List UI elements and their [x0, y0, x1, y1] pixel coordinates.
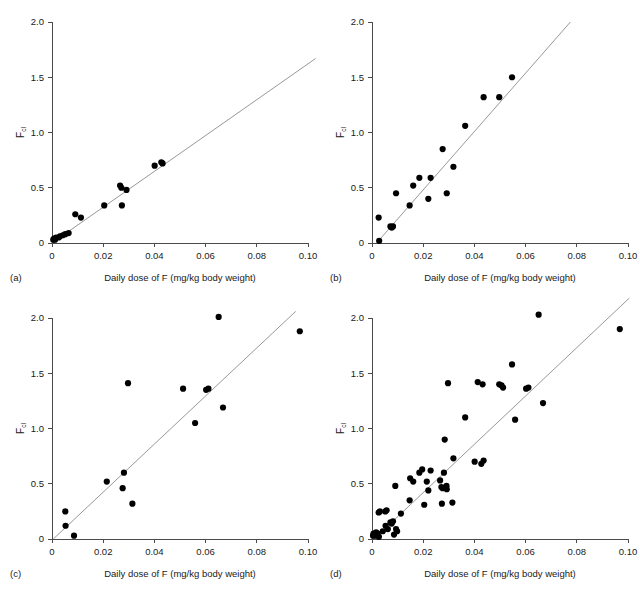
x-axis-title: Daily dose of F (mg/kg body weight) — [424, 272, 576, 283]
y-tick-label: 1.5 — [351, 368, 364, 379]
x-tick-label: 0 — [49, 546, 54, 557]
y-tick-label: 0.5 — [351, 182, 364, 193]
data-point — [462, 414, 468, 420]
data-point — [449, 499, 455, 505]
scatter-panel-c: 00.51.01.52.000.020.040.060.080.10FclDai… — [0, 296, 320, 592]
y-tick-label: 1.0 — [351, 127, 364, 138]
y-axis-title: Fcl — [15, 423, 27, 434]
data-point — [462, 123, 468, 129]
data-point — [385, 526, 391, 532]
data-point — [72, 211, 78, 217]
data-point — [376, 534, 382, 540]
scatter-panel-d: 00.51.01.52.000.020.040.060.080.10FclDai… — [320, 296, 640, 592]
data-point — [119, 202, 125, 208]
data-point — [393, 190, 399, 196]
scatter-panel-a: 00.51.01.52.000.020.040.060.080.10FclDai… — [0, 0, 320, 296]
data-point — [472, 459, 478, 465]
data-point — [617, 326, 623, 332]
data-point — [66, 230, 72, 236]
panel-label: (b) — [330, 272, 342, 283]
regression-line — [53, 311, 295, 539]
plot-area: 00.51.01.52.000.020.040.060.080.10FclDai… — [0, 296, 320, 592]
data-point — [410, 182, 416, 188]
y-tick-label: 0 — [359, 533, 364, 544]
y-axis-title-subscript: cl — [20, 127, 27, 132]
x-tick-label: 0.02 — [414, 250, 433, 261]
y-tick-label: 2.0 — [31, 312, 44, 323]
data-point — [525, 385, 531, 391]
data-point — [390, 223, 396, 229]
x-tick-label: 0 — [369, 546, 374, 557]
data-point — [425, 196, 431, 202]
data-point — [450, 455, 456, 461]
y-tick-label: 1.0 — [351, 423, 364, 434]
data-point — [62, 508, 68, 514]
y-axis-title-subscript: cl — [20, 423, 27, 428]
data-point — [192, 420, 198, 426]
data-point — [121, 470, 127, 476]
data-point — [441, 470, 447, 476]
y-tick-label: 1.5 — [31, 72, 44, 83]
data-point — [376, 214, 382, 220]
data-point — [180, 386, 186, 392]
data-point — [442, 436, 448, 442]
data-point — [540, 400, 546, 406]
data-point — [424, 478, 430, 484]
data-point — [62, 523, 68, 529]
data-point — [390, 518, 396, 524]
x-tick-label: 0.04 — [145, 250, 164, 261]
data-point — [125, 380, 131, 386]
data-point — [425, 487, 431, 493]
x-tick-label: 0.04 — [465, 546, 484, 557]
regression-line — [52, 58, 316, 243]
data-point — [428, 467, 434, 473]
data-point — [437, 477, 443, 483]
y-tick-label: 2.0 — [351, 16, 364, 27]
y-axis-title: Fcl — [335, 127, 347, 138]
data-point — [445, 380, 451, 386]
x-tick-label: 0.06 — [516, 250, 535, 261]
data-point — [297, 328, 303, 334]
data-point — [129, 501, 135, 507]
data-point — [416, 175, 422, 181]
data-point — [152, 163, 158, 169]
data-point — [123, 187, 129, 193]
data-point — [383, 507, 389, 513]
x-tick-label: 0 — [49, 250, 54, 261]
data-point — [419, 466, 425, 472]
data-point-group — [370, 312, 623, 540]
data-point-group — [376, 74, 516, 244]
x-tick-label: 0.04 — [145, 546, 164, 557]
regression-line — [377, 22, 571, 243]
data-point — [496, 94, 502, 100]
y-tick-label: 1.0 — [31, 423, 44, 434]
plot-area: 00.51.01.52.000.020.040.060.080.10FclDai… — [320, 296, 640, 592]
data-point — [120, 485, 126, 491]
x-tick-label: 0.06 — [196, 546, 215, 557]
data-point — [509, 361, 515, 367]
data-point — [101, 202, 107, 208]
x-tick-label: 0.08 — [568, 250, 587, 261]
y-axis-title-subscript: cl — [340, 127, 347, 132]
figure-root: 00.51.01.52.000.020.040.060.080.10FclDai… — [0, 0, 640, 592]
x-tick-label: 0.08 — [248, 546, 267, 557]
data-point — [481, 457, 487, 463]
y-tick-label: 0 — [39, 533, 44, 544]
x-tick-label: 0.02 — [414, 546, 433, 557]
y-tick-label: 0 — [359, 237, 364, 248]
x-axis-title: Daily dose of F (mg/kg body weight) — [424, 568, 576, 579]
data-point — [377, 508, 383, 514]
data-point — [394, 528, 400, 534]
data-point — [479, 381, 485, 387]
data-point — [444, 190, 450, 196]
scatter-panel-b: 00.51.01.52.000.020.040.060.080.10FclDai… — [320, 0, 640, 296]
y-tick-label: 1.0 — [31, 127, 44, 138]
panel-label: (a) — [10, 272, 22, 283]
regression-line — [374, 298, 629, 539]
data-point — [512, 417, 518, 423]
y-axis-title: Fcl — [335, 423, 347, 434]
y-tick-label: 0.5 — [351, 478, 364, 489]
panel-label: (c) — [10, 568, 21, 579]
data-point — [500, 385, 506, 391]
y-tick-label: 2.0 — [351, 312, 364, 323]
